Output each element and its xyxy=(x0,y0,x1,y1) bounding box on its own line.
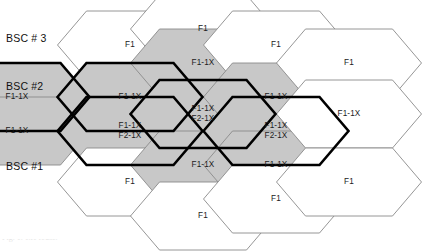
hex-cell-label: F1-1X xyxy=(6,92,29,101)
hex-cell-label: F1-1X xyxy=(338,109,361,118)
hex-cell-label: F2-1X xyxy=(265,131,288,140)
bsc-label-1: BSC #1 xyxy=(6,160,43,172)
hex-cell-label: F1-1X xyxy=(119,92,142,101)
hex-cell-label: F1-1X xyxy=(265,92,288,101)
hex-cell-label: F1-1X xyxy=(6,126,29,135)
hex-cell-label: F1-1X xyxy=(192,58,215,67)
hex-cell-label: F1 xyxy=(271,194,281,203)
hex-cell-label: F1 xyxy=(198,211,208,220)
bsc-label-3: BSC # 3 xyxy=(6,32,47,44)
figure-canvas: F1-1XF1-1XF1F1-1XF1-1XF2-1XF1F1F1-1XF1-1… xyxy=(0,0,436,251)
hex-cell-label: F1 xyxy=(344,177,354,186)
hex-cell-label: F1 xyxy=(344,58,354,67)
hex-cell-label: F1-1X xyxy=(192,104,215,113)
hex-cell-label: F1-1X xyxy=(119,121,142,130)
hex-cell-label: F1 xyxy=(271,40,281,49)
caption-strip: Fig. 1. 1x1 reuse. xyxy=(0,239,436,251)
hex-cell-label: F1-1X xyxy=(192,160,215,169)
hex-cell-label: F1-1X xyxy=(265,121,288,130)
caption-fragment: Fig. 1. 1x1 reuse. xyxy=(2,239,58,242)
hex-cell-label: F1 xyxy=(125,177,135,186)
hex-cell-label: F2-1X xyxy=(192,114,215,123)
hex-cell-label: F1 xyxy=(198,24,208,33)
hex-cell-label: F1-1X xyxy=(265,160,288,169)
bsc-label-2: BSC #2 xyxy=(6,80,43,92)
hexagon-grid: F1-1XF1-1XF1F1-1XF1-1XF2-1XF1F1F1-1XF1-1… xyxy=(0,0,436,251)
hex-cell-label: F1 xyxy=(125,40,135,49)
hex-cell-label: F2-1X xyxy=(119,131,142,140)
